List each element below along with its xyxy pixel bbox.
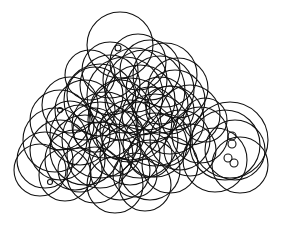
overlapping-circles-drawing [0,0,282,234]
